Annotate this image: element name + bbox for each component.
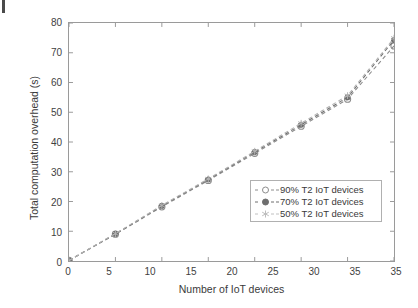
legend-marker-star-icon [254,208,280,220]
legend-label: 90% T2 IoT devices [280,184,364,196]
x-axis-label: Number of IoT devices [68,283,395,295]
y-tick-label: 70 [18,48,62,58]
y-tick-label: 20 [18,198,62,208]
legend-label: 50% T2 IoT devices [280,208,364,220]
x-tick-label: 0 [53,267,83,277]
y-tick-label: 40 [18,138,62,148]
y-tick-label: 60 [18,78,62,88]
chart-canvas [69,23,394,261]
legend-item-90[interactable]: 90% T2 IoT devices [254,184,377,196]
legend-label: 70% T2 IoT devices [280,196,364,208]
plot-area [68,22,395,262]
legend-marker-circle-filled-icon [254,196,280,208]
x-tick-label: 20 [217,267,247,277]
y-tick-label: 30 [18,168,62,178]
chart-figure: 80 70 60 50 40 30 20 10 0 0 5 10 15 20 2… [0,0,418,308]
x-tick-label: 25 [258,267,288,277]
x-tick-label: 35 [340,267,370,277]
y-tick-label: 10 [18,228,62,238]
x-tick-label: 15 [176,267,206,277]
x-tick-label: 5 [94,267,124,277]
x-tick-label: 30 [299,267,329,277]
y-axis-label: Total computation overhead (s) [28,28,40,268]
chart-legend: 90% T2 IoT devices 70% T2 IoT devices [250,180,382,222]
x-tick-label: 35 [381,267,411,277]
y-tick-label: 80 [18,18,62,28]
legend-item-70[interactable]: 70% T2 IoT devices [254,196,377,208]
y-tick-label: 50 [18,108,62,118]
x-tick-label: 10 [135,267,165,277]
legend-marker-circle-open-icon [254,184,280,196]
legend-item-50[interactable]: 50% T2 IoT devices [254,208,377,220]
